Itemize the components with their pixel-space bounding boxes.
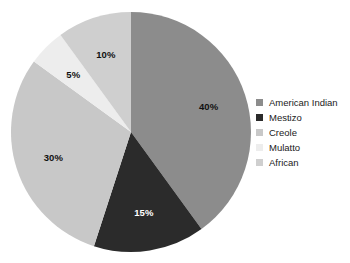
legend-item[interactable]: Creole [256, 125, 350, 140]
legend-item-label: Mulatto [269, 142, 300, 153]
legend-color-swatch-icon [256, 144, 263, 151]
legend-item[interactable]: American Indian [256, 95, 350, 110]
legend-color-swatch-icon [256, 159, 263, 166]
pie-slices-group [11, 12, 251, 252]
pie-slice-value-label: 15% [134, 207, 154, 218]
pie-slice-value-label: 40% [199, 101, 219, 112]
chart-page: 40%15%30%5%10% American IndianMestizoCre… [0, 0, 350, 263]
pie-slice-value-label: 10% [96, 49, 116, 60]
legend-color-swatch-icon [256, 99, 263, 106]
legend-item[interactable]: Mestizo [256, 110, 350, 125]
legend-item-label: Creole [269, 127, 297, 138]
chart-legend: American IndianMestizoCreoleMulattoAfric… [256, 95, 350, 170]
legend-color-swatch-icon [256, 114, 263, 121]
pie-slice-value-label: 5% [66, 69, 80, 80]
legend-item-label: American Indian [269, 97, 338, 108]
legend-item-label: Mestizo [269, 112, 302, 123]
legend-item[interactable]: Mulatto [256, 140, 350, 155]
legend-item-label: African [269, 157, 299, 168]
legend-color-swatch-icon [256, 129, 263, 136]
legend-item[interactable]: African [256, 155, 350, 170]
pie-slice-value-label: 30% [44, 152, 64, 163]
